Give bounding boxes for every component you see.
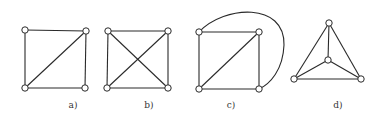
graph-vertex: [22, 85, 28, 91]
graph-vertex: [104, 85, 110, 91]
graph-vertex: [358, 76, 364, 82]
graph-edge: [107, 31, 108, 88]
graph-edge: [85, 31, 86, 88]
graph-figure: a)b)c)d): [0, 0, 380, 120]
graph-vertex: [326, 20, 332, 26]
subfigure-label-c: c): [227, 100, 236, 110]
edges-layer: [25, 12, 361, 89]
graph-vertex: [165, 28, 171, 34]
graph-vertex: [196, 29, 202, 35]
graph-vertex: [256, 29, 262, 35]
graph-edge: [25, 30, 86, 31]
graph-b: [107, 31, 168, 88]
graph-edge: [199, 32, 259, 89]
graph-vertex: [196, 86, 202, 92]
graph-vertex: [83, 28, 89, 34]
graph-edge: [329, 23, 361, 79]
labels-layer: a)b)c)d): [69, 100, 343, 110]
graph-vertex: [22, 27, 28, 33]
graph-vertex: [105, 28, 111, 34]
graph-a: [25, 30, 86, 88]
subfigure-label-d: d): [333, 100, 342, 110]
graph-edge: [294, 23, 329, 79]
graph-vertex: [82, 85, 88, 91]
graph-vertex: [256, 86, 262, 92]
graph-edge: [25, 31, 86, 88]
graph-c: [199, 12, 284, 89]
graph-vertex: [291, 76, 297, 82]
subfigure-label-a: a): [69, 100, 78, 110]
graph-vertex: [165, 85, 171, 91]
subfigure-label-b: b): [144, 100, 153, 110]
graph-diagram-svg: a)b)c)d): [0, 0, 380, 120]
graph-d: [294, 23, 361, 79]
graph-vertex: [325, 57, 331, 63]
graph-edge: [328, 23, 329, 60]
graph-edge: [294, 60, 328, 79]
